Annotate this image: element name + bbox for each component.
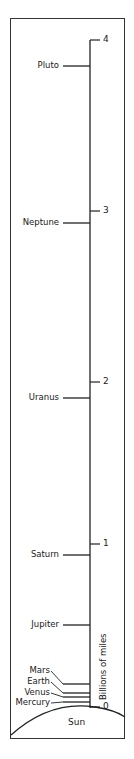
tick-label: 2 (103, 376, 109, 386)
tick-label: 3 (103, 205, 109, 215)
axis-title: Billions of miles (98, 633, 108, 700)
tick-label: 4 (103, 34, 109, 44)
leader-line (51, 671, 63, 684)
sun-label: Sun (68, 717, 85, 727)
planet-label-venus: Venus (24, 687, 50, 697)
tick-label: 1 (103, 538, 109, 548)
planet-label-neptune: Neptune (23, 217, 59, 227)
leader-line (51, 682, 63, 693)
planet-label-mercury: Mercury (16, 697, 50, 707)
planet-label-mars: Mars (30, 665, 50, 675)
tick-label: 0 (103, 701, 109, 711)
planet-label-uranus: Uranus (29, 392, 59, 402)
planet-label-jupiter: Jupiter (31, 619, 59, 629)
leader-line (51, 693, 63, 697)
leader-line (51, 702, 63, 703)
planet-label-saturn: Saturn (31, 549, 59, 559)
planet-label-pluto: Pluto (38, 60, 59, 70)
scale-lines (0, 0, 134, 759)
planet-label-earth: Earth (27, 676, 50, 686)
